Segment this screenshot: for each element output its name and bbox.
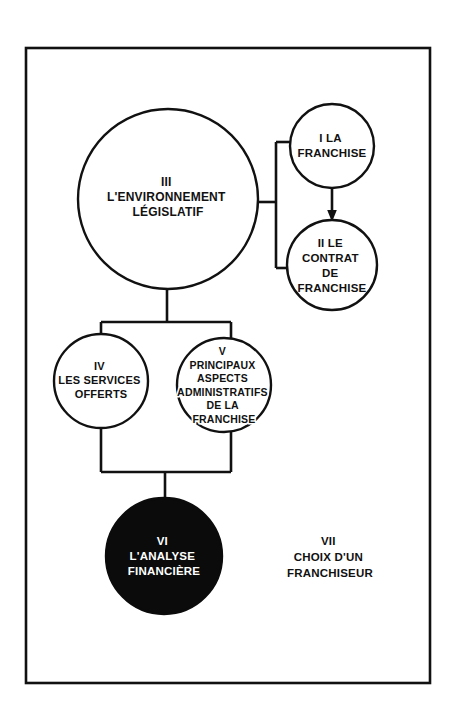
node-iv-line-1: LES SERVICES [58, 374, 140, 386]
node-v-line-3: ADMINISTRATIFS [177, 386, 268, 398]
node-iii-line-1: L'ENVIRONNEMENT [107, 190, 226, 204]
node-ii[interactable]: II LE CONTRAT DE FRANCHISE [287, 220, 377, 310]
node-i-line-0: I LA [319, 132, 341, 144]
node-iv-line-0: IV [94, 360, 105, 372]
node-v-line-1: PRINCIPAUX [189, 359, 255, 371]
node-v-line-4: DE LA [206, 399, 239, 411]
node-i-circle[interactable] [290, 104, 374, 188]
node-vi-line-2: FINANCIÈRE [128, 565, 200, 577]
franchise-structure-diagram: III L'ENVIRONNEMENT LÉGISLATIF I LA FRAN… [0, 0, 459, 723]
node-iii[interactable]: III L'ENVIRONNEMENT LÉGISLATIF [78, 109, 258, 289]
node-vi-line-0: VI [157, 535, 168, 547]
node-v-line-0: V [219, 345, 226, 357]
node-iv[interactable]: IV LES SERVICES OFFERTS [54, 334, 148, 428]
node-i[interactable]: I LA FRANCHISE [290, 104, 374, 188]
node-v[interactable]: V PRINCIPAUX ASPECTS ADMINISTRATIFS DE L… [177, 338, 271, 432]
node-vii-line-2: FRANCHISEUR [287, 567, 373, 579]
node-vi[interactable]: VI L'ANALYSE FINANCIÈRE [106, 498, 222, 614]
node-i-line-1: FRANCHISE [298, 147, 367, 159]
node-ii-line-3: FRANCHISE [298, 282, 367, 294]
diagram-canvas: III L'ENVIRONNEMENT LÉGISLATIF I LA FRAN… [0, 0, 459, 723]
node-v-line-5: FRANCHISE [192, 413, 255, 425]
node-ii-circle[interactable] [287, 220, 377, 310]
node-ii-line-1: CONTRAT [302, 252, 359, 264]
node-iii-line-2: LÉGISLATIF [132, 204, 203, 219]
node-iii-line-0: III [161, 175, 172, 189]
node-iv-line-2: OFFERTS [75, 388, 128, 400]
node-ii-line-0: II LE [318, 237, 343, 249]
node-ii-line-2: DE [322, 267, 339, 279]
node-vi-line-1: L'ANALYSE [130, 550, 196, 562]
node-vii-line-1: CHOIX D'UN [294, 551, 363, 563]
node-v-line-2: ASPECTS [197, 372, 248, 384]
node-vii-line-0: VII [321, 535, 336, 547]
